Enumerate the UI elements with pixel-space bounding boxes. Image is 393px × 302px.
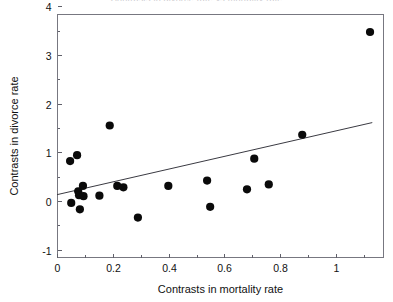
y-tick-label: 3 bbox=[46, 50, 52, 62]
data-points bbox=[66, 28, 374, 222]
data-point bbox=[106, 121, 114, 129]
x-tick-label: 0.4 bbox=[162, 262, 177, 274]
data-point bbox=[206, 203, 214, 211]
data-point bbox=[243, 185, 251, 193]
data-point bbox=[76, 205, 84, 213]
plot-area: -101234 00.20.40.60.81 Contrasts in mort… bbox=[0, 0, 393, 302]
y-tick-label: 0 bbox=[46, 196, 52, 208]
data-point bbox=[79, 192, 87, 200]
plot-frame bbox=[58, 15, 384, 258]
data-point bbox=[366, 28, 374, 36]
trend-line bbox=[57, 123, 372, 195]
y-tick-label: 1 bbox=[46, 147, 52, 159]
data-point bbox=[265, 180, 273, 188]
data-point bbox=[134, 213, 142, 221]
data-point bbox=[164, 182, 172, 190]
y-tick-label: 4 bbox=[46, 1, 52, 13]
data-point bbox=[119, 183, 127, 191]
data-point bbox=[79, 182, 87, 190]
x-tick-label: 0.6 bbox=[217, 262, 232, 274]
y-tick-label: 2 bbox=[46, 99, 52, 111]
data-point bbox=[250, 155, 258, 163]
x-tick-label: 0.2 bbox=[106, 262, 121, 274]
x-tick-label: 0 bbox=[55, 262, 61, 274]
data-point bbox=[66, 157, 74, 165]
data-point bbox=[298, 131, 306, 139]
data-point bbox=[203, 176, 211, 184]
data-point bbox=[95, 192, 103, 200]
minor-ticks bbox=[58, 32, 365, 258]
y-tick-label: -1 bbox=[42, 245, 51, 257]
x-tick-label: 0.8 bbox=[273, 262, 288, 274]
y-axis-title: Contrasts in divorce rate bbox=[8, 76, 20, 195]
x-tick-label: 1 bbox=[334, 262, 340, 274]
data-point bbox=[67, 199, 75, 207]
x-axis-title: Contrasts in mortality rate bbox=[158, 283, 283, 295]
data-point bbox=[73, 151, 81, 159]
scatter-chart: Contrasts in divorce rate vs mortality r… bbox=[0, 0, 393, 302]
